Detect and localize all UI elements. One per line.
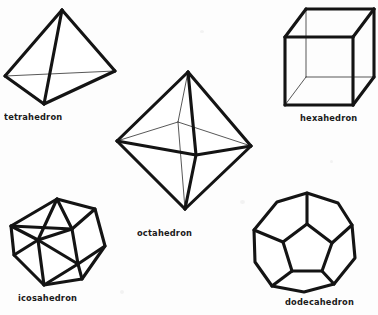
label-tetrahedron: tetrahedron bbox=[4, 112, 62, 122]
dodecahedron-shape bbox=[254, 193, 355, 292]
label-hexahedron: hexahedron bbox=[300, 113, 357, 123]
label-octahedron: octahedron bbox=[137, 228, 192, 238]
label-dodecahedron: dodecahedron bbox=[285, 297, 354, 307]
octahedron-shape bbox=[117, 72, 251, 209]
tetrahedron-shape bbox=[5, 10, 115, 104]
solids-drawing bbox=[0, 0, 378, 315]
hexahedron-shape bbox=[285, 9, 374, 105]
platonic-solids-figure: tetrahedron hexahedron octahedron icosah… bbox=[0, 0, 378, 315]
icosahedron-shape bbox=[11, 199, 105, 285]
label-icosahedron: icosahedron bbox=[18, 293, 77, 303]
